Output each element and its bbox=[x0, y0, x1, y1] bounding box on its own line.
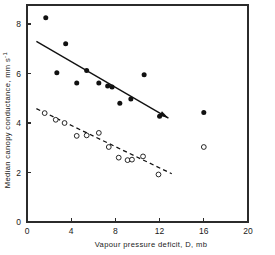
data-point-filled-circles bbox=[43, 15, 48, 20]
x-tick-label: 0 bbox=[25, 226, 30, 236]
axis-ticks bbox=[27, 24, 204, 222]
data-point-open-circles bbox=[201, 145, 206, 150]
x-tick-label: 4 bbox=[69, 226, 74, 236]
data-point-filled-circles bbox=[54, 70, 59, 75]
data-point-open-circles bbox=[96, 131, 101, 136]
x-tick-label: 16 bbox=[199, 226, 209, 236]
x-tick-label: 12 bbox=[155, 226, 165, 236]
data-point-open-circles bbox=[74, 133, 79, 138]
data-point-open-circles bbox=[116, 155, 121, 160]
y-tick-label: 2 bbox=[16, 168, 21, 178]
data-point-open-circles bbox=[106, 145, 111, 150]
axis-tick-labels: 04812162002468 bbox=[16, 19, 253, 236]
data-point-open-circles bbox=[130, 157, 135, 162]
regression-lines bbox=[36, 41, 171, 173]
data-point-filled-circles bbox=[128, 96, 133, 101]
data-point-filled-circles bbox=[201, 110, 206, 115]
y-tick-label: 0 bbox=[16, 217, 21, 227]
y-tick-label: 4 bbox=[16, 118, 21, 128]
data-point-filled-circles bbox=[117, 101, 122, 106]
data-point-filled-circles bbox=[157, 114, 162, 119]
data-point-filled-circles bbox=[96, 80, 101, 85]
fit-line-filled-circles bbox=[36, 41, 168, 118]
y-tick-label: 8 bbox=[16, 19, 21, 29]
data-point-filled-circles bbox=[63, 41, 68, 46]
y-axis-title: Median canopy conductance, mm s-1 bbox=[2, 52, 12, 189]
data-point-open-circles bbox=[62, 121, 67, 126]
plot-frame bbox=[27, 5, 248, 222]
x-tick-label: 20 bbox=[243, 226, 253, 236]
data-points bbox=[42, 15, 206, 177]
data-point-open-circles bbox=[84, 133, 89, 138]
data-point-filled-circles bbox=[110, 85, 115, 90]
data-point-filled-circles bbox=[142, 72, 147, 77]
data-point-filled-circles bbox=[74, 80, 79, 85]
x-tick-label: 8 bbox=[113, 226, 118, 236]
data-point-filled-circles bbox=[105, 83, 110, 88]
x-axis-title: Vapour pressure deficit, D, mb bbox=[95, 240, 208, 249]
data-point-open-circles bbox=[141, 154, 146, 159]
scatter-plot: 04812162002468 Vapour pressure deficit, … bbox=[0, 0, 275, 255]
y-tick-label: 6 bbox=[16, 69, 21, 79]
data-point-open-circles bbox=[53, 117, 58, 122]
figure-container: 04812162002468 Vapour pressure deficit, … bbox=[0, 0, 275, 255]
data-point-open-circles bbox=[156, 172, 161, 177]
data-point-filled-circles bbox=[84, 68, 89, 73]
data-point-open-circles bbox=[42, 111, 47, 116]
